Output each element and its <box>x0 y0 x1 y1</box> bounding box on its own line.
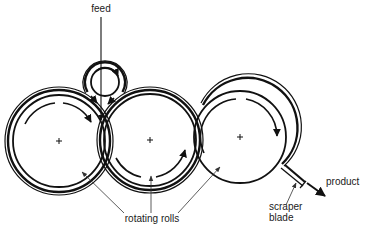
roll-middle-rotation-arrow <box>156 150 185 177</box>
product-arrow <box>307 183 325 196</box>
scraper-blade-label-line1: scraper <box>269 201 303 212</box>
feed-side-arrow-right <box>108 98 114 104</box>
rotating-rolls-label: rotating rolls <box>125 213 179 224</box>
feed-roll <box>83 61 127 96</box>
scraper-blade-label-line2: blade <box>269 212 294 223</box>
roll-mill-diagram: feed rotating rolls scraper blade produc… <box>0 0 368 236</box>
roll-left-rotation-arrow <box>63 103 91 122</box>
scraper-blade <box>281 165 306 188</box>
feed-label: feed <box>91 3 110 14</box>
leader-roll-right <box>178 167 220 213</box>
product-label: product <box>326 176 360 187</box>
